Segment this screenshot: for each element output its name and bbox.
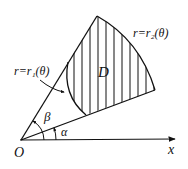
label-region-d: D: [98, 65, 109, 80]
ray-alpha: [21, 90, 155, 140]
label-alpha: α: [61, 126, 67, 138]
label-inner-curve: r=r₁(θ): [14, 65, 50, 77]
x-axis: [20, 139, 175, 140]
label-x-axis: x: [168, 143, 174, 157]
ray-beta: [21, 16, 97, 140]
inner-curve-r1: [67, 62, 86, 115]
beta-arc: [33, 121, 44, 140]
label-outer-curve: r=r₂(θ): [133, 27, 169, 39]
label-origin: O: [14, 146, 24, 160]
polar-region-diagram: O x α β D r=r₁(θ) r=r₂(θ): [0, 0, 188, 169]
label-beta: β: [44, 110, 50, 123]
alpha-arc: [54, 128, 56, 140]
